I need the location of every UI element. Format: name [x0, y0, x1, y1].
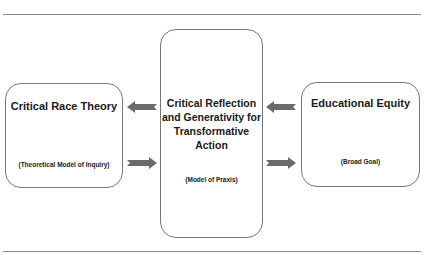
model-of-praxis-box: Critical Reflection and Generativity for… — [160, 29, 263, 238]
critical-race-theory-box: Critical Race Theory (Theoretical Model … — [5, 83, 123, 188]
bottom-rule — [3, 251, 421, 252]
center-box-title: Critical Reflection and Generativity for… — [161, 96, 262, 152]
arrow-right-icon — [127, 157, 157, 169]
arrow-right-icon — [266, 157, 296, 169]
top-rule — [3, 14, 421, 15]
educational-equity-box: Educational Equity (Broad Goal) — [301, 82, 420, 187]
arrow-left-icon — [266, 101, 296, 113]
left-box-subtitle: (Theoretical Model of Inquiry) — [6, 161, 122, 169]
center-box-subtitle: (Model of Praxis) — [161, 176, 262, 184]
right-box-subtitle: (Broad Goal) — [302, 158, 419, 166]
left-box-title: Critical Race Theory — [6, 99, 122, 113]
arrow-left-icon — [127, 101, 157, 113]
right-box-title: Educational Equity — [302, 96, 419, 110]
